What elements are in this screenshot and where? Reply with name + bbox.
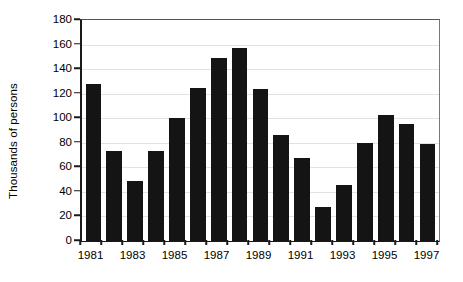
- plot-area: [80, 19, 440, 242]
- y-axis-tick-label: 80: [59, 136, 72, 148]
- bar-slot: [83, 20, 104, 241]
- bar-slot: [104, 20, 125, 241]
- x-axis-tick-mark: [121, 240, 123, 245]
- bar: [169, 118, 185, 241]
- bar: [232, 48, 248, 241]
- bar-slot: [292, 20, 313, 241]
- x-axis-tick-mark: [415, 240, 417, 245]
- x-axis-tick-mark: [352, 240, 354, 245]
- bar: [315, 207, 331, 241]
- bar: [336, 185, 352, 241]
- bar-slot: [167, 20, 188, 241]
- bar: [211, 58, 227, 241]
- x-axis-tick-mark: [184, 240, 186, 245]
- bar-slot: [271, 20, 292, 241]
- bar-slot: [354, 20, 375, 241]
- y-axis-tick-group: 020406080100120140160180: [0, 0, 80, 282]
- bar: [378, 115, 394, 241]
- y-axis-tick-label: 140: [53, 62, 72, 74]
- y-axis-tick-label: 20: [59, 209, 72, 221]
- x-axis-tick-mark: [268, 240, 270, 245]
- x-axis-tick-label: 1983: [120, 249, 146, 261]
- x-axis-tick-mark: [205, 240, 207, 245]
- x-axis-tick-mark: [289, 240, 291, 245]
- x-axis-tick-label: 1989: [246, 249, 272, 261]
- bar-slot: [396, 20, 417, 241]
- y-axis-tick-label: 160: [53, 38, 72, 50]
- bar: [190, 88, 206, 241]
- bar: [127, 181, 143, 241]
- y-axis-tick-label: 0: [66, 234, 72, 246]
- x-axis-tick-label: 1987: [204, 249, 230, 261]
- x-axis-tick-label: 1981: [78, 249, 104, 261]
- bar: [399, 124, 415, 241]
- bar-slot: [250, 20, 271, 241]
- x-axis-tick-mark: [142, 240, 144, 245]
- bar: [357, 143, 373, 241]
- bar: [86, 84, 102, 241]
- x-axis-tick-label: 1997: [414, 249, 440, 261]
- bar-slot: [229, 20, 250, 241]
- bar: [420, 144, 436, 241]
- bar-slot: [375, 20, 396, 241]
- x-axis-tick-mark: [436, 240, 438, 245]
- x-axis-tick-label: 1995: [372, 249, 398, 261]
- x-axis-tick-mark: [100, 240, 102, 245]
- bar-slot: [313, 20, 334, 241]
- x-axis-tick-label: 1993: [330, 249, 356, 261]
- bar: [294, 158, 310, 241]
- bar-slot: [146, 20, 167, 241]
- y-axis-tick-label: 60: [59, 160, 72, 172]
- x-axis-tick-mark: [226, 240, 228, 245]
- y-axis-tick-label: 40: [59, 185, 72, 197]
- bar: [273, 135, 289, 241]
- x-axis-tick-mark: [310, 240, 312, 245]
- bar-slot: [208, 20, 229, 241]
- bar-slot: [187, 20, 208, 241]
- bar-series: [82, 20, 439, 241]
- bar-chart-figure: Thousands of persons 0204060801001201401…: [0, 0, 463, 282]
- x-axis-tick-mark: [79, 240, 81, 245]
- y-axis-tick-label: 100: [53, 111, 72, 123]
- x-axis-tick-mark: [247, 240, 249, 245]
- y-axis-tick-label: 120: [53, 87, 72, 99]
- y-axis-tick-label: 180: [53, 13, 72, 25]
- bar: [148, 151, 164, 241]
- bar: [253, 89, 269, 241]
- bar-slot: [125, 20, 146, 241]
- x-axis-tick-mark: [394, 240, 396, 245]
- x-axis-tick-mark: [163, 240, 165, 245]
- bar-slot: [334, 20, 355, 241]
- bar: [106, 151, 122, 241]
- x-axis-tick-label: 1985: [162, 249, 188, 261]
- x-axis-tick-group: 198119831985198719891991199319951997: [80, 240, 437, 282]
- x-axis-tick-label: 1991: [288, 249, 314, 261]
- x-axis-tick-mark: [373, 240, 375, 245]
- x-axis-tick-mark: [331, 240, 333, 245]
- bar-slot: [417, 20, 438, 241]
